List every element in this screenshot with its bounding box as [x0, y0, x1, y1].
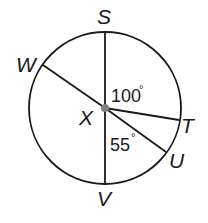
segment-xt: [105, 108, 179, 120]
label-w: W: [16, 53, 38, 76]
label-t: T: [181, 114, 196, 137]
label-v: V: [97, 187, 113, 210]
center-point: [101, 104, 109, 112]
degree-symbol-55: °: [131, 131, 135, 143]
label-x: X: [78, 106, 94, 129]
angle-label-55: 55: [110, 135, 130, 155]
degree-symbol-100: °: [139, 83, 143, 95]
circle-diagram: S T U V W X 100 ° 55 °: [0, 0, 208, 223]
label-s: S: [97, 5, 111, 28]
label-u: U: [169, 149, 185, 172]
segment-xw: [43, 65, 105, 108]
angle-label-100: 100: [111, 86, 141, 106]
